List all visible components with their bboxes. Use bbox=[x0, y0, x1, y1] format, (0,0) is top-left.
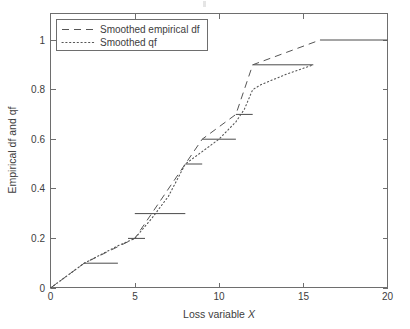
x-axis-title: Loss variable X bbox=[183, 308, 256, 320]
x-tick-label-10: 10 bbox=[213, 291, 225, 302]
empirical-step-series bbox=[84, 40, 387, 263]
legend-label-smoothed-empirical-df: Smoothed empirical df bbox=[100, 24, 200, 35]
x-tick-labels: 0 5 10 15 20 bbox=[48, 291, 394, 302]
legend-label-smoothed-qf: Smoothed qf bbox=[100, 37, 157, 48]
x-tick-label-5: 5 bbox=[132, 291, 138, 302]
y-tick-label-0p4: 0.4 bbox=[31, 183, 45, 194]
legend[interactable]: Smoothed empirical df Smoothed qf bbox=[57, 20, 208, 51]
y-tick-labels: 0 0.2 0.4 0.6 0.8 1 bbox=[31, 35, 45, 294]
axes-frame bbox=[51, 14, 388, 288]
x-axis-ticks bbox=[51, 14, 388, 289]
y-tick-label-0p2: 0.2 bbox=[31, 233, 45, 244]
x-axis-title-text: Loss variable bbox=[183, 308, 245, 320]
y-axis-title: Empirical df and qf bbox=[6, 106, 18, 193]
chart-plot: 0 5 10 15 20 0 0.2 0.4 0.6 0.8 1 Loss va… bbox=[0, 0, 410, 329]
scan-artifact bbox=[203, 1, 206, 7]
x-tick-label-20: 20 bbox=[382, 291, 394, 302]
smoothed-qf-series bbox=[51, 65, 314, 288]
y-tick-label-1: 1 bbox=[39, 35, 45, 46]
y-tick-label-0p8: 0.8 bbox=[31, 84, 45, 95]
x-tick-label-0: 0 bbox=[48, 291, 54, 302]
figure-canvas: 0 5 10 15 20 0 0.2 0.4 0.6 0.8 1 Loss va… bbox=[0, 0, 410, 329]
x-tick-label-15: 15 bbox=[298, 291, 310, 302]
y-tick-label-0: 0 bbox=[39, 283, 45, 294]
y-tick-label-0p6: 0.6 bbox=[31, 134, 45, 145]
y-axis-ticks bbox=[51, 40, 388, 288]
x-axis-title-variable: X bbox=[247, 308, 256, 320]
